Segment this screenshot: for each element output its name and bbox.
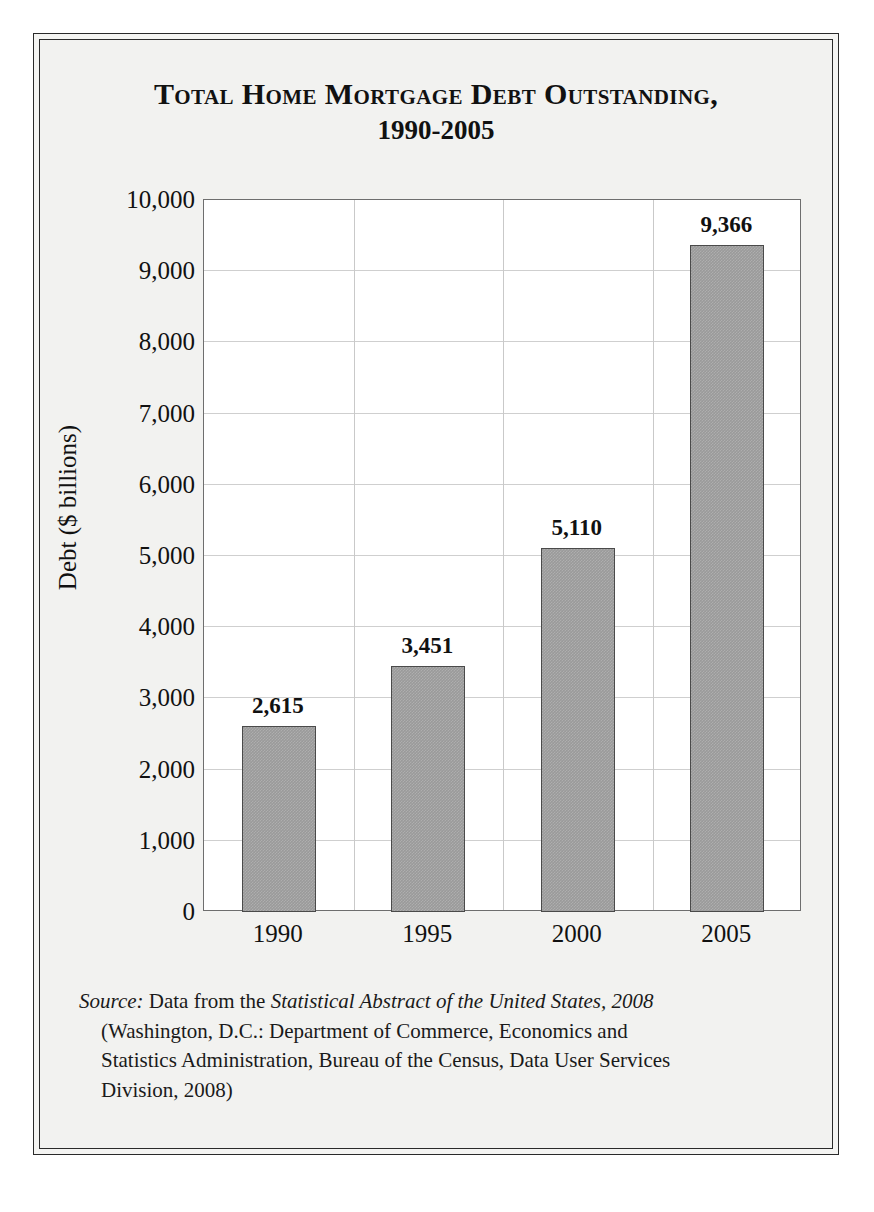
bar-chart: Debt ($ billions) 01,0002,0003,0004,0005… <box>39 159 833 949</box>
x-axis-tick-label: 1995 <box>347 921 507 946</box>
y-axis-tick-label: 6,000 <box>45 472 195 497</box>
bar-value-label: 3,451 <box>347 634 507 657</box>
page-title: Total Home Mortgage Debt Outstanding, 19… <box>39 75 833 149</box>
y-axis-tick-label: 3,000 <box>45 685 195 710</box>
bar-value-label: 5,110 <box>497 516 657 539</box>
category-separator <box>653 200 654 910</box>
y-axis-tick-label: 4,000 <box>45 614 195 639</box>
y-axis-tick-label: 8,000 <box>45 329 195 354</box>
x-axis-tick-label: 2000 <box>497 921 657 946</box>
source-line-3: Statistics Administration, Bureau of the… <box>79 1046 795 1076</box>
y-axis-tick-label: 2,000 <box>45 757 195 782</box>
y-axis-tick-label: 0 <box>45 899 195 924</box>
x-axis-tick-label: 2005 <box>646 921 806 946</box>
title-line-2: 1990-2005 <box>39 112 833 149</box>
y-axis-tick-labels: 01,0002,0003,0004,0005,0006,0007,0008,00… <box>39 199 195 911</box>
source-line-2: (Washington, D.C.: Department of Commerc… <box>79 1017 795 1047</box>
y-axis-tick-label: 10,000 <box>45 187 195 212</box>
bar <box>690 245 764 912</box>
source-note: Source: Data from the Statistical Abstra… <box>79 987 795 1105</box>
source-work-title: Statistical Abstract of the United State… <box>271 989 654 1013</box>
figure-page: Total Home Mortgage Debt Outstanding, 19… <box>0 0 874 1212</box>
figure-content: Total Home Mortgage Debt Outstanding, 19… <box>39 39 833 1149</box>
bar <box>391 666 465 912</box>
title-line-1: Total Home Mortgage Debt Outstanding, <box>154 77 718 110</box>
category-separator <box>354 200 355 910</box>
y-axis-tick-label: 1,000 <box>45 828 195 853</box>
bar-value-label: 2,615 <box>198 694 358 717</box>
plot-area <box>203 199 801 911</box>
source-lead: Data from the <box>144 989 271 1013</box>
source-line-4: Division, 2008) <box>79 1076 795 1106</box>
x-axis-tick-label: 1990 <box>198 921 358 946</box>
y-axis-tick-label: 7,000 <box>45 401 195 426</box>
bar <box>242 726 316 912</box>
y-axis-tick-label: 5,000 <box>45 543 195 568</box>
bar-value-label: 9,366 <box>646 213 806 236</box>
category-separator <box>503 200 504 910</box>
y-axis-tick-label: 9,000 <box>45 258 195 283</box>
source-label: Source: <box>79 989 144 1013</box>
bar <box>541 548 615 912</box>
